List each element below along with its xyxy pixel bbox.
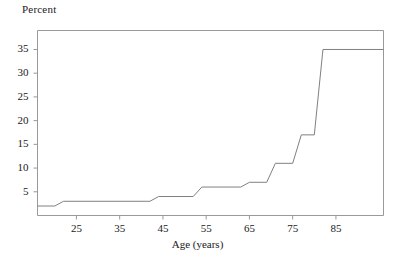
y-tick-label: 35 [5,42,29,54]
y-tick-label: 30 [5,66,29,78]
plot-frame [38,31,384,216]
x-tick-label: 75 [280,222,306,234]
chart-figure: Percent 5101520253035 25354555657585 Age… [0,0,395,265]
x-axis-label: Age (years) [172,238,224,250]
x-tick-label: 25 [63,222,89,234]
y-tick-label: 10 [5,161,29,173]
x-tick-label: 45 [150,222,176,234]
x-axis-label-wrap: Age (years) [0,238,395,250]
y-tick-label: 25 [5,90,29,102]
y-tick-label: 5 [5,185,29,197]
y-tick-label: 15 [5,137,29,149]
x-tick-label: 65 [236,222,262,234]
data-line-percent-by-age [38,49,384,206]
y-tick-label: 20 [5,114,29,126]
x-tick-label: 35 [107,222,133,234]
x-tick-label: 85 [323,222,349,234]
y-axis-ticks [34,49,38,191]
x-axis-ticks [76,216,336,220]
plot-border [38,31,384,216]
x-tick-label: 55 [193,222,219,234]
